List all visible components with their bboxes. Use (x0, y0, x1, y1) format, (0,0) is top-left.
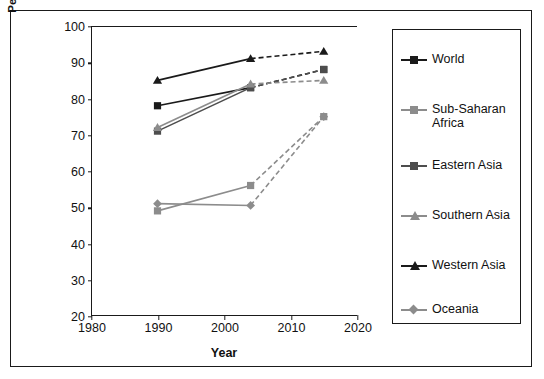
legend-label: Sub-SaharanAfrica (432, 102, 506, 130)
legend-label: Western Asia (432, 258, 505, 272)
data-point (154, 102, 161, 109)
series-world (154, 66, 327, 109)
data-point (319, 47, 328, 55)
triangle-marker-icon (401, 259, 427, 273)
legend-item-southern-asia[interactable]: Southern Asia (401, 208, 510, 223)
legend-item-oceania[interactable]: Oceania (401, 302, 479, 317)
legend-label: Eastern Asia (432, 158, 502, 172)
series-eastern-asia (154, 66, 327, 135)
legend-label: World (432, 52, 464, 66)
data-point (153, 199, 162, 208)
square-marker-icon (401, 159, 427, 173)
y-axis-title-line2: drinking water (33, 0, 47, 13)
series-segment (158, 59, 251, 81)
series-lines (91, 26, 357, 316)
data-point (319, 76, 328, 84)
square-marker-icon (401, 103, 427, 117)
series-segment (251, 51, 324, 58)
x-tick-mark (357, 315, 358, 320)
series-segment (251, 80, 324, 84)
data-point (247, 182, 254, 189)
diamond-marker-icon (401, 303, 427, 317)
series-sub-saharan-africa (154, 113, 327, 214)
legend-item-world[interactable]: World (401, 52, 464, 67)
data-point (153, 123, 162, 131)
legend-item-eastern-asia[interactable]: Eastern Asia (401, 158, 502, 173)
square-marker-icon (401, 53, 427, 67)
series-segment (251, 117, 324, 206)
data-point (154, 207, 161, 214)
x-axis-title: Year (91, 346, 357, 360)
chart-legend: WorldSub-SaharanAfricaEastern AsiaSouthe… (392, 29, 521, 324)
legend-label: Oceania (432, 302, 479, 316)
triangle-marker-icon (401, 209, 427, 223)
series-oceania (153, 112, 328, 210)
series-segment (251, 70, 324, 88)
series-segment (158, 204, 251, 206)
series-southern-asia (153, 76, 328, 131)
series-segment (158, 88, 251, 132)
data-point (320, 66, 327, 73)
series-segment (158, 84, 251, 128)
legend-label: Southern Asia (432, 208, 510, 222)
chart-frame: Percent of population with access to dri… (10, 10, 532, 367)
series-western-asia (153, 47, 328, 84)
series-segment (251, 117, 324, 186)
plot-area: 2030405060708090100 19801990200020102020… (91, 16, 366, 326)
y-axis-title: Percent of population with access to dri… (3, 0, 49, 41)
series-segment (158, 186, 251, 211)
legend-item-sub-saharan-africa[interactable]: Sub-SaharanAfrica (401, 102, 506, 130)
y-axis-title-line1: Percent of population with access to (5, 0, 19, 13)
legend-item-western-asia[interactable]: Western Asia (401, 258, 505, 273)
